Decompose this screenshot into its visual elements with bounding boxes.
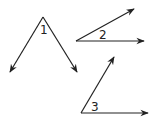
angle-label: 2 bbox=[99, 28, 107, 42]
ray-1-2 bbox=[43, 17, 77, 72]
angle-label: 3 bbox=[91, 100, 99, 114]
angle-3: 3 bbox=[81, 57, 148, 114]
angle-diagram: 123 bbox=[0, 0, 158, 124]
ray-1-1 bbox=[10, 17, 43, 72]
angle-label: 1 bbox=[40, 23, 48, 37]
diagram-canvas: 123 bbox=[0, 0, 158, 124]
angle-1: 1 bbox=[10, 17, 77, 72]
angle-2: 2 bbox=[76, 9, 144, 42]
